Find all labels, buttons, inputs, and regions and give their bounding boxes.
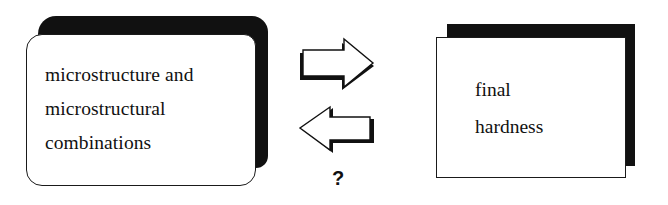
microstructure-line-3: combinations	[45, 126, 194, 160]
microstructure-line-2: microstructural	[45, 92, 194, 126]
final-hardness-box-text: final hardness	[475, 71, 543, 145]
question-mark-label: ?	[332, 166, 344, 190]
left-arrow-icon	[300, 107, 374, 153]
microstructure-box-text: microstructure and microstructural combi…	[45, 58, 194, 160]
final-hardness-line-1: final	[475, 71, 543, 108]
final-hardness-line-2: hardness	[475, 108, 543, 145]
diagram-canvas: microstructure and microstructural combi…	[0, 0, 668, 205]
microstructure-line-1: microstructure and	[45, 58, 194, 92]
right-arrow-icon	[300, 39, 374, 90]
